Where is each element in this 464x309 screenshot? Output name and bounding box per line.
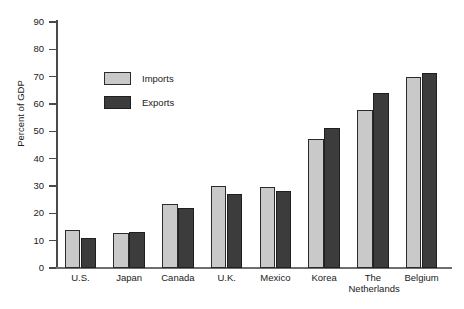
bar-exports [373,93,389,268]
bar-group [397,22,446,268]
bar-exports [422,73,438,268]
x-axis-label: U.S. [56,272,105,283]
x-axis-label: Canada [154,272,203,283]
bar-imports [308,139,324,268]
y-axis-tick [49,49,56,50]
x-axis-label: Belgium [397,272,446,283]
legend-item-imports: Imports [104,68,174,88]
bar-group [105,22,154,268]
y-axis-tick-label: 50 [0,126,44,136]
y-axis-tick [49,240,56,241]
bar-exports [324,128,340,268]
bar-chart-figure: Percent of GDP 0102030405060708090 U.S.J… [0,0,464,309]
y-axis-tick [49,76,56,77]
bar-exports [129,232,145,268]
y-axis-tick [49,103,56,104]
y-axis-tick [49,131,56,132]
bar-exports [178,208,194,268]
bar-exports [276,191,292,268]
y-axis-tick-label: 40 [0,154,44,164]
x-axis-label: The Netherlands [349,272,398,294]
x-axis-label: Korea [300,272,349,283]
bar-group [56,22,105,268]
legend-label-imports: Imports [142,73,174,84]
bar-imports [211,186,227,268]
y-axis-tick [49,185,56,186]
x-axis-label: Japan [105,272,154,283]
y-axis-tick [49,158,56,159]
y-axis-tick-label: 0 [0,263,44,273]
bar-group [251,22,300,268]
bar-group [202,22,251,268]
y-axis-tick-label: 70 [0,72,44,82]
y-axis-tick [49,267,56,268]
y-axis-tick-label: 30 [0,181,44,191]
bar-exports [227,194,243,268]
x-axis-label: U.K. [202,272,251,283]
legend-label-exports: Exports [142,97,174,108]
bar-imports [162,204,178,268]
bar-group [154,22,203,268]
bar-group [300,22,349,268]
bar-imports [113,233,129,268]
y-axis-tick-label: 10 [0,236,44,246]
x-axis-label: Mexico [251,272,300,283]
bar-imports [357,110,373,268]
y-axis-tick [49,21,56,22]
y-axis-tick [49,213,56,214]
y-axis-tick-label: 20 [0,208,44,218]
chart-legend: Imports Exports [104,68,174,116]
y-axis-tick-label: 80 [0,44,44,54]
legend-item-exports: Exports [104,92,174,112]
bar-imports [406,77,422,268]
legend-swatch-exports [104,96,131,109]
bar-group [349,22,398,268]
y-axis-tick-label: 90 [0,17,44,27]
legend-swatch-imports [104,72,131,85]
y-axis-tick-label: 60 [0,99,44,109]
bar-imports [260,187,276,268]
plot-area [56,22,446,268]
bar-exports [81,238,97,268]
bar-imports [65,230,81,268]
